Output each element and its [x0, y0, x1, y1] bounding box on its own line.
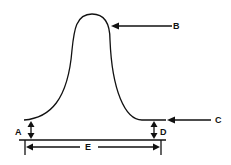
label-e: E — [85, 142, 91, 152]
label-a: A — [15, 127, 22, 137]
peak-diagram: B C A D E — [0, 0, 231, 165]
label-d: D — [160, 127, 167, 137]
dimension-d — [151, 121, 158, 139]
label-b: B — [173, 21, 180, 31]
arrow-b — [111, 23, 172, 30]
label-c: C — [215, 115, 222, 125]
dimension-a — [28, 121, 35, 139]
dimension-e — [25, 140, 161, 155]
peak-curve — [24, 14, 166, 120]
arrow-c — [167, 117, 211, 124]
